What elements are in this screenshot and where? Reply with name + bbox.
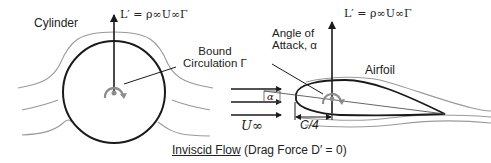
alpha-symbol: α <box>267 91 274 103</box>
angle-label-line1: Angle of <box>272 27 317 39</box>
angle-of-attack-label: Angle of Attack, α <box>272 27 317 51</box>
airfoil-lift-formula: L′ = ρ∞U∞Γ <box>344 8 412 20</box>
cylinder-label: Cylinder <box>34 17 78 29</box>
caption: Inviscid Flow (Drag Force D′ = 0) <box>172 144 347 156</box>
kutta-joukowski-diagram: Cylinder L′ = ρ∞U∞Γ Bound Circulation Γ … <box>0 0 491 163</box>
caption-inviscid-flow: Inviscid Flow <box>172 143 241 157</box>
circulation-label: Bound Circulation Γ <box>170 45 260 69</box>
chord-line <box>264 91 445 114</box>
circulation-label-line2: Circulation Γ <box>170 57 260 69</box>
caption-drag-force: (Drag Force D′ = 0) <box>241 143 347 157</box>
airfoil-streamlines <box>300 77 491 127</box>
angle-label-line2: Attack, α <box>272 39 317 51</box>
quarter-chord-label: C/4 <box>300 119 319 131</box>
freestream-velocity-label: U∞ <box>241 120 263 132</box>
circulation-label-line1: Bound <box>170 45 260 57</box>
cylinder-lift-formula: L′ = ρ∞U∞Γ <box>120 9 188 21</box>
airfoil-vortex-icon <box>323 94 345 105</box>
airfoil-label: Airfoil <box>365 64 395 76</box>
cylinder-vortex-icon <box>105 88 127 99</box>
circulation-leader-line <box>124 67 176 84</box>
